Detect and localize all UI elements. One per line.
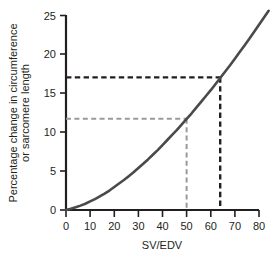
data-series-line [66,11,269,210]
x-tick-label: 0 [63,220,69,232]
x-tick-label: 50 [180,220,192,232]
y-tick-label: 0 [50,204,56,216]
y-tick-label: 15 [44,87,56,99]
chart-figure: 0 5 10 15 20 25 0 10 20 30 40 50 [0,0,280,259]
x-tick-label: 60 [205,220,217,232]
reference-dashed-gray [66,119,187,210]
y-axis-title-line2: or sarcomere length [19,64,31,162]
x-tick-label: 20 [108,220,120,232]
x-tick-label: 70 [229,220,241,232]
x-axis-tick-labels: 0 10 20 30 40 50 60 70 80 [63,220,265,232]
x-tick-label: 80 [253,220,265,232]
y-tick-label: 25 [44,10,56,22]
x-axis-title: SV/EDV [142,239,183,251]
chart-plot-area: 0 5 10 15 20 25 0 10 20 30 40 50 [0,0,280,259]
x-tick-label: 40 [156,220,168,232]
x-tick-label: 30 [132,220,144,232]
y-tick-label: 20 [44,48,56,60]
reference-dashed-dark [66,77,220,210]
y-axis-tick-labels: 0 5 10 15 20 25 [44,10,56,216]
y-axis-title-line1: Percentage change in circumference [7,23,19,202]
x-tick-label: 10 [84,220,96,232]
y-tick-label: 10 [44,126,56,138]
y-tick-label: 5 [50,165,56,177]
